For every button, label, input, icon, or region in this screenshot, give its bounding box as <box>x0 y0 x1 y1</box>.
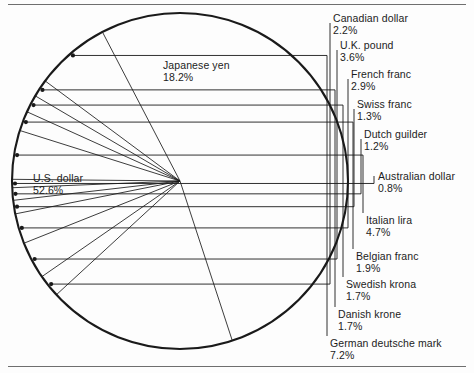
slice-label-australian-dollar-name: Australian dollar <box>378 170 455 182</box>
callout-edge-dots <box>13 53 75 286</box>
slice-label-dutch-guilder-pct: 1.2% <box>364 140 427 152</box>
slice-label-canadian-dollar-pct: 2.2% <box>333 24 408 36</box>
pie-chart-figure: U.S. dollar 52.6% Japanese yen 18.2% Can… <box>0 0 474 373</box>
slice-label-uk-pound: U.K. pound 3.6% <box>340 39 394 63</box>
slice-label-us-dollar-pct: 52.6% <box>33 184 83 196</box>
slice-label-swiss-franc: Swiss franc 1.3% <box>357 98 412 122</box>
slice-label-swedish-krona-name: Swedish krona <box>346 278 416 290</box>
slice-label-japanese-yen-pct: 18.2% <box>163 71 230 83</box>
leader-line-french-franc <box>22 79 348 228</box>
pie-divider-german-deutsche-mark <box>45 81 180 181</box>
slice-label-dutch-guilder: Dutch guilder 1.2% <box>364 128 427 152</box>
edge-dot-belgian-franc <box>24 120 28 124</box>
edge-dot-australian-dollar <box>13 181 17 185</box>
slice-label-german-mark-name: German deutsche mark <box>330 337 442 349</box>
slice-label-swedish-krona: Swedish krona 1.7% <box>346 278 416 302</box>
edge-dot-swiss-franc <box>15 205 19 209</box>
slice-label-danish-krone: Danish krone 1.7% <box>338 308 401 332</box>
slice-label-canadian-dollar-name: Canadian dollar <box>333 12 408 24</box>
slice-label-french-franc: French franc 2.9% <box>351 68 411 92</box>
slice-label-french-franc-name: French franc <box>351 68 411 80</box>
slice-label-us-dollar-name: U.S. dollar <box>33 172 83 184</box>
slice-label-french-franc-pct: 2.9% <box>351 80 411 92</box>
edge-dot-canadian-dollar <box>49 282 53 286</box>
pie-divider-japanese-yen <box>180 181 232 341</box>
slice-label-australian-dollar-pct: 0.8% <box>378 182 455 194</box>
edge-dot-swedish-krona <box>31 103 35 107</box>
slice-label-belgian-franc-name: Belgian franc <box>356 250 419 262</box>
edge-dot-german-deutsche-mark <box>71 53 75 57</box>
slice-label-italian-lira: Italian lira 4.7% <box>366 214 412 238</box>
slice-label-swiss-franc-name: Swiss franc <box>357 98 412 110</box>
slice-label-uk-pound-pct: 3.6% <box>340 51 394 63</box>
edge-dot-dutch-guilder <box>13 192 17 196</box>
slice-label-australian-dollar: Australian dollar 0.8% <box>378 170 455 194</box>
edge-dot-italian-lira <box>15 153 19 157</box>
slice-label-dutch-guilder-name: Dutch guilder <box>364 128 427 140</box>
pie-divider-canadian-dollar <box>56 181 180 295</box>
leader-line-german-deutsche-mark <box>73 55 327 336</box>
slice-label-uk-pound-name: U.K. pound <box>340 39 394 51</box>
edge-dot-danish-krone <box>40 88 44 92</box>
slice-label-japanese-yen: Japanese yen 18.2% <box>163 59 230 83</box>
slice-label-swiss-franc-pct: 1.3% <box>357 110 412 122</box>
slice-label-swedish-krona-pct: 1.7% <box>346 290 416 302</box>
slice-label-canadian-dollar: Canadian dollar 2.2% <box>333 12 408 36</box>
slice-label-german-mark-pct: 7.2% <box>330 349 442 361</box>
edge-dot-u-k-pound <box>33 257 37 261</box>
slice-label-japanese-yen-name: Japanese yen <box>163 59 230 71</box>
slice-label-belgian-franc: Belgian franc 1.9% <box>356 250 419 274</box>
slice-label-danish-krone-pct: 1.7% <box>338 320 401 332</box>
slice-label-german-mark: German deutsche mark 7.2% <box>330 337 442 361</box>
slice-label-us-dollar: U.S. dollar 52.6% <box>33 172 83 196</box>
slice-label-belgian-franc-pct: 1.9% <box>356 262 419 274</box>
slice-label-danish-krone-name: Danish krone <box>338 308 401 320</box>
slice-label-italian-lira-name: Italian lira <box>366 214 412 226</box>
slice-label-italian-lira-pct: 4.7% <box>366 226 412 238</box>
edge-dot-french-franc <box>20 226 24 230</box>
